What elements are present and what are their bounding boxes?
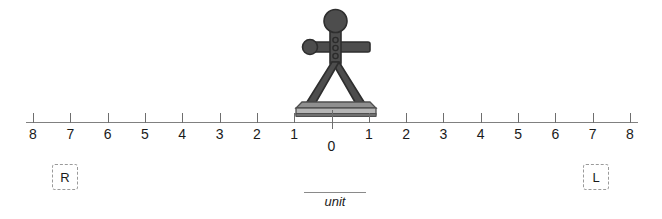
person-on-board-icon bbox=[288, 2, 384, 120]
tick-mark bbox=[108, 113, 109, 123]
drop-target-left-label: R bbox=[60, 170, 69, 185]
tick-mark bbox=[443, 113, 444, 123]
tick-label: 1 bbox=[279, 126, 309, 142]
tick-label: 4 bbox=[466, 126, 496, 142]
torso-shape bbox=[330, 29, 341, 65]
drop-target-right[interactable]: L bbox=[583, 164, 609, 190]
tick-mark bbox=[294, 113, 295, 123]
tick-label: 1 bbox=[354, 126, 384, 142]
unit-rule bbox=[304, 192, 366, 193]
right-leg-shape bbox=[332, 62, 364, 102]
tick-mark bbox=[182, 113, 183, 123]
tick-label: 5 bbox=[503, 126, 533, 142]
tick-mark bbox=[257, 113, 258, 123]
tick-mark bbox=[593, 113, 594, 123]
tick-label: 7 bbox=[55, 126, 85, 142]
tick-label: 3 bbox=[205, 126, 235, 142]
tick-mark bbox=[70, 113, 71, 123]
left-hand-shape bbox=[303, 40, 318, 55]
tick-label: 8 bbox=[18, 126, 48, 142]
diagram-canvas: 87654321012345678 R L unit bbox=[0, 0, 662, 219]
tick-mark bbox=[220, 113, 221, 123]
tick-mark bbox=[481, 113, 482, 123]
tick-label: 3 bbox=[428, 126, 458, 142]
tick-mark bbox=[33, 113, 34, 123]
figure-svg bbox=[288, 2, 384, 120]
tick-label: 7 bbox=[578, 126, 608, 142]
tick-mark bbox=[518, 113, 519, 123]
tick-label: 8 bbox=[615, 126, 645, 142]
tick-label: 2 bbox=[391, 126, 421, 142]
unit-label: unit bbox=[300, 194, 370, 209]
left-leg-shape bbox=[307, 62, 339, 102]
tick-label-zero: 0 bbox=[317, 138, 347, 154]
tick-label: 6 bbox=[93, 126, 123, 142]
head-shape bbox=[324, 10, 347, 33]
tick-label: 5 bbox=[130, 126, 160, 142]
tick-mark bbox=[630, 113, 631, 123]
tick-label: 2 bbox=[242, 126, 272, 142]
board-shape bbox=[296, 102, 376, 117]
drop-target-left[interactable]: R bbox=[52, 164, 78, 190]
unit-caption: unit bbox=[300, 192, 370, 209]
tick-mark bbox=[555, 113, 556, 123]
drop-target-right-label: L bbox=[592, 170, 599, 185]
tick-mark bbox=[369, 113, 370, 123]
tick-label: 4 bbox=[167, 126, 197, 142]
tick-mark bbox=[145, 113, 146, 123]
tick-zero bbox=[332, 110, 333, 129]
tick-mark bbox=[406, 113, 407, 123]
tick-label: 6 bbox=[540, 126, 570, 142]
